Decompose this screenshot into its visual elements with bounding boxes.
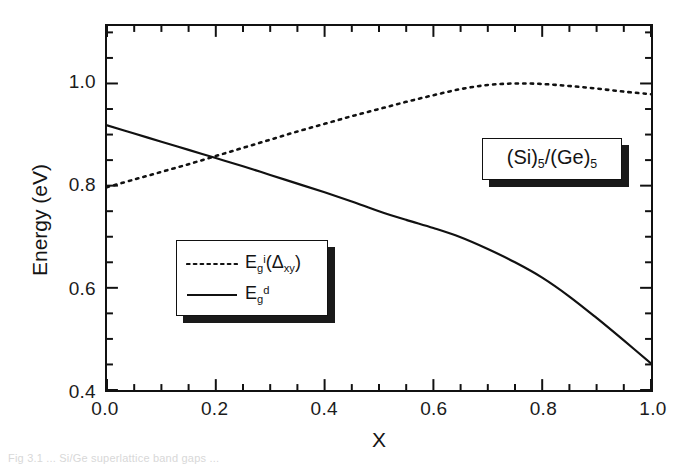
annotation-box-superlattice: (Si)5/(Ge)5 (482, 138, 622, 180)
dotted-line-swatch-icon (186, 258, 238, 270)
annotation-label-superlattice: (Si)5/(Ge)5 (507, 147, 597, 170)
x-tick-label-1: 0.2 (201, 398, 228, 420)
x-tick-label-4: 0.8 (530, 398, 557, 420)
y-tick-label-0: 0.4 (42, 381, 96, 403)
data-curves (107, 83, 651, 363)
figure-caption: Fig 3.1 ... Si/Ge superlattice band gaps… (8, 452, 219, 464)
y-tick-label-3: 1.0 (42, 71, 96, 93)
y-axis-title: Energy (eV) (28, 120, 52, 320)
x-axis-title: X (372, 428, 386, 452)
legend-entry-indirect-gap: Egi(Δxy) (186, 248, 317, 279)
plot-canvas (107, 26, 651, 390)
figure-container: 0.0 0.2 0.4 0.6 0.8 1.0 0.4 0.6 0.8 1.0 … (0, 0, 684, 475)
legend-entry-direct-gap: Egd (186, 279, 317, 310)
x-tick-label-2: 0.4 (311, 398, 338, 420)
legend-box: Egi(Δxy) Egd (176, 240, 328, 316)
legend-label-direct-gap: Egd (245, 284, 269, 305)
axis-ticks (107, 26, 651, 390)
solid-line-swatch-icon (186, 289, 238, 301)
x-tick-label-5: 1.0 (639, 398, 666, 420)
plot-area (105, 24, 653, 392)
legend-label-indirect-gap: Egi(Δxy) (245, 253, 301, 274)
x-tick-label-3: 0.6 (420, 398, 447, 420)
